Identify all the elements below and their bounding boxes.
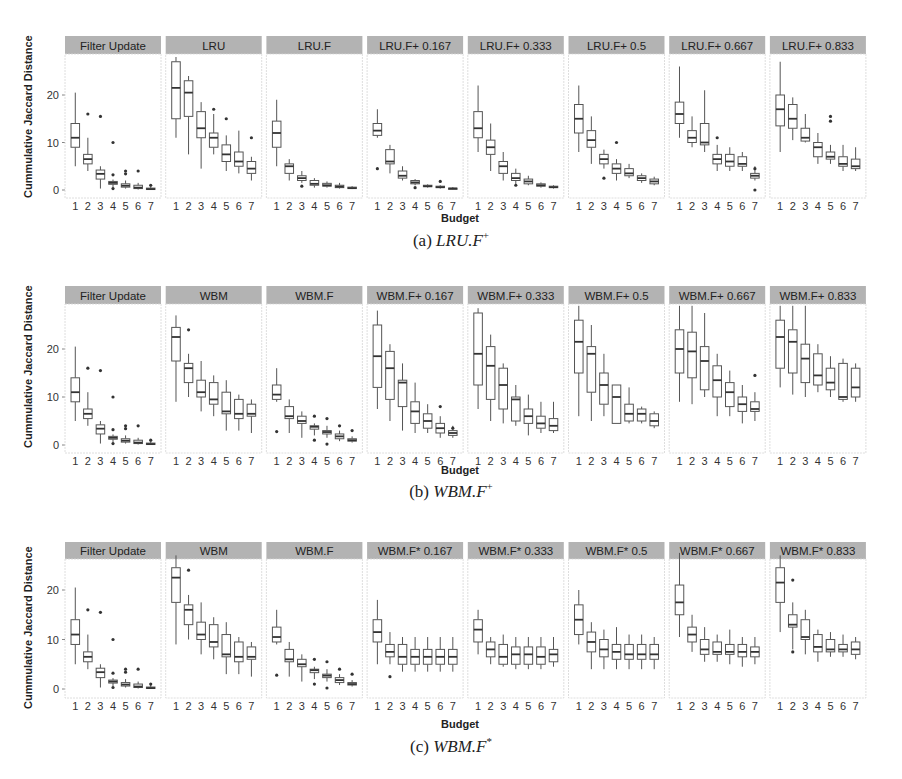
outlier-point: [149, 439, 152, 442]
caption-prefix: (b): [409, 482, 433, 501]
facet-strip-label: WBM.F+ 0.167: [377, 290, 454, 302]
outlier-point: [99, 115, 102, 118]
x-tick-label: 1: [475, 200, 481, 212]
x-tick-label: 6: [135, 200, 141, 212]
x-tick-label: 7: [550, 455, 556, 467]
x-tick-label: 3: [299, 200, 305, 212]
x-tick-label: 6: [739, 200, 745, 212]
x-tick-label: 2: [286, 200, 292, 212]
x-tick-label: 5: [525, 200, 531, 212]
x-tick-label: 3: [97, 700, 103, 712]
outlier-point: [124, 671, 127, 674]
facet-strip-label: WBM.F* 0.167: [378, 545, 453, 557]
y-tick-label: 0: [53, 683, 59, 695]
facet-panel: LRU.F+ 0.6671234567: [669, 36, 765, 212]
facet-strip-label: Filter Update: [80, 40, 146, 52]
facet-panel: Filter Update1234567: [65, 542, 161, 712]
x-tick-label: 2: [488, 700, 494, 712]
x-tick-label: 6: [336, 200, 342, 212]
x-tick-label: 5: [324, 455, 330, 467]
x-tick-label: 5: [626, 700, 632, 712]
x-tick-label: 7: [853, 700, 859, 712]
x-tick-label: 1: [576, 455, 582, 467]
x-tick-label: 6: [336, 700, 342, 712]
x-tick-label: 4: [311, 200, 317, 212]
outlier-point: [829, 120, 832, 123]
x-tick-label: 2: [387, 455, 393, 467]
x-tick-label: 7: [752, 455, 758, 467]
x-tick-label: 2: [689, 200, 695, 212]
facet-strip-label: WBM.F+ 0.833: [779, 290, 856, 302]
facet-panel: WBM.F1234567: [266, 286, 362, 467]
x-tick-label: 7: [349, 455, 355, 467]
x-tick-label: 3: [198, 700, 204, 712]
x-tick-label: 5: [123, 455, 129, 467]
facet-panel: WBM.F* 0.8331234567: [770, 542, 866, 712]
outlier-point: [791, 579, 794, 582]
x-tick-label: 1: [72, 700, 78, 712]
x-tick-label: 4: [311, 700, 317, 712]
x-tick-label: 6: [236, 200, 242, 212]
caption-sup: +: [487, 480, 493, 492]
facet-grid-c: 01020Filter Update1234567WBM1234567WBM.F…: [0, 505, 902, 730]
x-tick-label: 6: [336, 455, 342, 467]
x-axis-label: Budget: [410, 718, 510, 730]
x-tick-label: 7: [349, 700, 355, 712]
outlier-point: [313, 682, 316, 685]
facet-panel: LRU.F+ 0.1671234567: [367, 36, 463, 212]
boxplot-box: [839, 359, 848, 402]
x-tick-label: 6: [840, 200, 846, 212]
facet-panel: LRU.F+ 0.8331234567: [770, 36, 866, 212]
x-tick-label: 5: [324, 200, 330, 212]
row-c: Cummulative Jaccard Distance 01020Filter…: [0, 505, 902, 779]
x-tick-label: 5: [626, 200, 632, 212]
x-tick-label: 4: [513, 700, 519, 712]
x-tick-label: 4: [815, 455, 821, 467]
x-tick-label: 2: [286, 455, 292, 467]
row-b: Cummulative Jaccard Distance 01020Filter…: [0, 250, 902, 510]
x-tick-label: 5: [223, 455, 229, 467]
x-tick-label: 2: [689, 455, 695, 467]
x-tick-label: 1: [274, 200, 280, 212]
x-tick-label: 7: [248, 200, 254, 212]
x-tick-label: 3: [601, 700, 607, 712]
x-tick-label: 5: [425, 700, 431, 712]
facet-strip-label: LRU.F+ 0.5: [587, 40, 646, 52]
outlier-point: [137, 424, 140, 427]
outlier-point: [149, 184, 152, 187]
outlier-point: [212, 108, 215, 111]
outlier-point: [615, 141, 618, 144]
y-tick-label: 10: [47, 137, 59, 149]
x-tick-label: 7: [148, 200, 154, 212]
x-tick-label: 5: [223, 200, 229, 212]
x-tick-label: 2: [790, 200, 796, 212]
facet-strip-label: WBM.F+ 0.333: [477, 290, 554, 302]
x-tick-label: 5: [827, 700, 833, 712]
x-tick-label: 1: [374, 700, 380, 712]
outlier-point: [829, 115, 832, 118]
x-tick-label: 7: [248, 700, 254, 712]
y-tick-label: 20: [47, 584, 59, 596]
facet-strip-label: WBM.F+ 0.5: [584, 290, 648, 302]
x-tick-label: 1: [777, 455, 783, 467]
outlier-point: [300, 185, 303, 188]
x-tick-label: 2: [790, 455, 796, 467]
facet-strip-label: LRU.F: [298, 40, 331, 52]
x-tick-label: 2: [85, 200, 91, 212]
caption-sup: +: [483, 229, 489, 241]
x-tick-label: 5: [827, 200, 833, 212]
boxplot-box: [423, 184, 432, 187]
facet-panel: Filter Update1234567: [65, 36, 161, 212]
x-tick-label: 5: [324, 700, 330, 712]
x-tick-label: 3: [500, 700, 506, 712]
outlier-point: [149, 682, 152, 685]
outlier-point: [137, 169, 140, 172]
x-axis-label: Budget: [410, 212, 510, 224]
facet-panel: LRU1234567: [166, 36, 262, 212]
outlier-point: [791, 650, 794, 653]
outlier-point: [716, 136, 719, 139]
x-tick-label: 1: [676, 200, 682, 212]
panel-background: [669, 559, 765, 698]
x-tick-label: 6: [538, 700, 544, 712]
x-tick-label: 4: [613, 455, 619, 467]
